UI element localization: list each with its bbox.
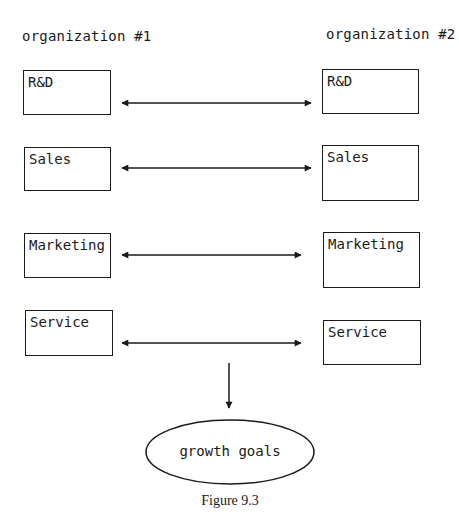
figure-caption: Figure 9.3	[130, 493, 330, 509]
org2-rnd-box: R&D	[322, 69, 419, 114]
org1-rnd-box: R&D	[23, 70, 111, 115]
org2-marketing-label: Marketing	[328, 236, 404, 252]
org2-rnd-label: R&D	[327, 73, 352, 89]
org2-sales-label: Sales	[327, 149, 369, 165]
org2-sales-box: Sales	[322, 145, 419, 201]
org1-service-label: Service	[30, 314, 89, 330]
org2-header: organization #2	[326, 26, 455, 42]
org1-service-box: Service	[25, 310, 113, 356]
org1-marketing-box: Marketing	[24, 233, 111, 278]
diagram-canvas: organization #1 organization #2 R&D Sale…	[0, 0, 459, 523]
org1-marketing-label: Marketing	[29, 237, 105, 253]
org2-service-box: Service	[323, 320, 421, 365]
org1-rnd-label: R&D	[28, 74, 53, 90]
org1-sales-box: Sales	[24, 147, 111, 191]
growth-goals-label: growth goals	[146, 443, 314, 459]
org1-sales-label: Sales	[29, 151, 71, 167]
org2-marketing-box: Marketing	[323, 232, 420, 288]
org1-header: organization #1	[22, 28, 151, 44]
org2-service-label: Service	[328, 324, 387, 340]
